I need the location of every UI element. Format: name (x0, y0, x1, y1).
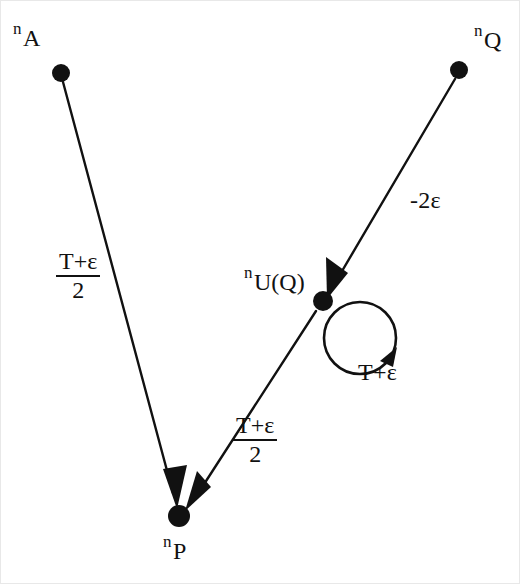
edge-n-u-q-to-n-p-label-numerator: T+ε (233, 413, 277, 439)
node-n-q-label-prefix: n (474, 21, 483, 40)
graph-diagram: nA nQ nU(Q) nP T+ε 2 -2ε T+ε 2 T+ε (0, 0, 520, 584)
edge-n-q-to-n-u-q-arrowhead (326, 257, 348, 299)
node-n-u-q-label-subscript: U(Q) (254, 269, 305, 295)
edge-n-a-to-n-p-label: T+ε 2 (56, 249, 100, 303)
edge-n-u-q-self-loop-label: T+ε (358, 359, 397, 386)
node-n-p-dot[interactable] (168, 505, 190, 527)
edge-n-u-q-to-n-p-label-denominator: 2 (249, 441, 261, 467)
node-n-p-label: nP (163, 532, 186, 565)
edge-n-u-q-to-n-p-label: T+ε 2 (233, 413, 277, 467)
node-n-u-q-dot[interactable] (313, 291, 333, 311)
node-n-q-dot[interactable] (450, 61, 468, 79)
edge-n-a-to-n-p-label-numerator: T+ε (56, 249, 100, 275)
node-n-p-label-subscript: P (173, 538, 186, 564)
edge-n-q-to-n-u-q-line (335, 79, 455, 283)
node-n-a-label: nA (13, 19, 40, 52)
edge-n-a-to-n-p-label-denominator: 2 (72, 277, 84, 303)
node-n-a-label-prefix: n (13, 19, 22, 38)
edge-n-u-q-to-n-p (185, 311, 316, 511)
node-n-u-q-label: nU(Q) (244, 263, 305, 296)
edge-n-q-to-n-u-q-label: -2ε (410, 187, 441, 214)
node-n-p-label-prefix: n (163, 532, 172, 551)
node-n-q-label: nQ (474, 21, 501, 54)
node-n-q-label-subscript: Q (484, 27, 501, 53)
edge-n-u-q-to-n-p-arrowhead (185, 471, 211, 511)
node-n-a-label-subscript: A (23, 25, 40, 51)
edge-n-a-to-n-p-arrowhead (163, 465, 187, 509)
node-n-a-dot[interactable] (52, 64, 70, 82)
edge-n-u-q-to-n-p-line (197, 311, 316, 495)
node-n-u-q-label-prefix: n (244, 263, 253, 282)
